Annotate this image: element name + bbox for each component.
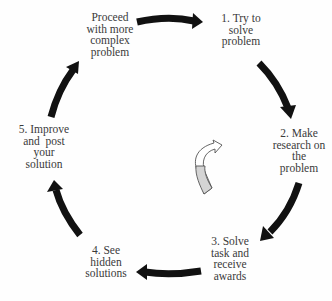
step-5-line-3: your [14, 147, 74, 159]
arrow-down-right-icon [259, 63, 296, 119]
arrow-right-icon [137, 13, 203, 29]
step-4-line-1: 4. See [78, 245, 134, 257]
step-6-line-1: Proceed [80, 12, 140, 24]
step-5-line-4: solution [14, 159, 74, 171]
arrow-up-right-icon [51, 61, 79, 117]
step-4-label: 4. See hidden solutions [78, 245, 134, 280]
step-3-line-3: receive [202, 259, 258, 271]
arrow-left-icon [136, 264, 201, 280]
arrow-down-left-icon [260, 183, 299, 241]
step-3-line-4: awards [202, 271, 258, 283]
step-6-line-4: problem [80, 47, 140, 59]
step-1-line-1: 1. Try to [214, 13, 268, 25]
step-1-line-3: problem [214, 36, 268, 48]
step-2-label: 2. Make research on the problem [266, 128, 332, 174]
step-4-line-3: solutions [78, 268, 134, 280]
step-2-line-3: the [266, 151, 332, 163]
step-5-label: 5. Improve and post your solution [14, 124, 74, 170]
cycle-diagram: 1. Try to solve problem 2. Make research… [0, 0, 332, 301]
step-3-line-1: 3. Solve [202, 236, 258, 248]
step-2-line-4: problem [266, 163, 332, 175]
clockwise-curved-arrow-icon [195, 140, 222, 194]
step-5-line-1: 5. Improve [14, 124, 74, 136]
step-3-label: 3. Solve task and receive awards [202, 236, 258, 282]
step-6-label: Proceed with more complex problem [80, 12, 140, 58]
step-1-label: 1. Try to solve problem [214, 13, 268, 48]
arrow-up-left-icon [47, 180, 80, 235]
step-2-line-1: 2. Make [266, 128, 332, 140]
step-6-line-3: complex [80, 35, 140, 47]
